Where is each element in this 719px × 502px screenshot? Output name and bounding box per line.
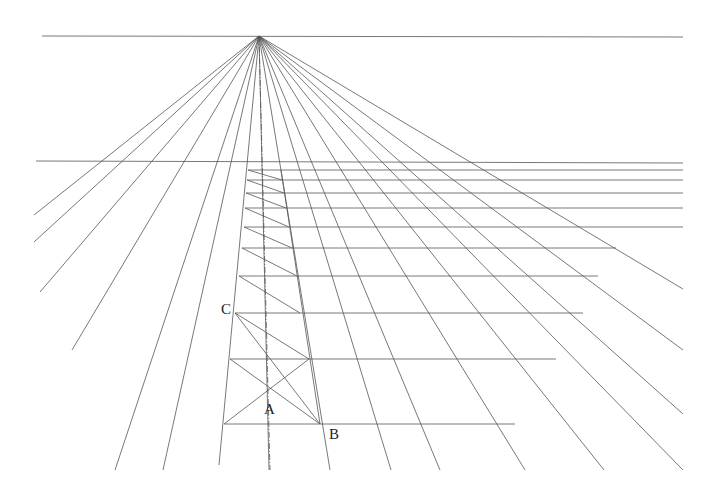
perspective-diagram bbox=[0, 0, 719, 502]
label-c: C bbox=[221, 302, 231, 317]
horizon-line bbox=[42, 36, 683, 37]
label-b: B bbox=[329, 427, 339, 442]
transversal-lines bbox=[224, 170, 683, 424]
label-a: A bbox=[264, 402, 275, 417]
orthogonal-rays bbox=[34, 36, 683, 470]
